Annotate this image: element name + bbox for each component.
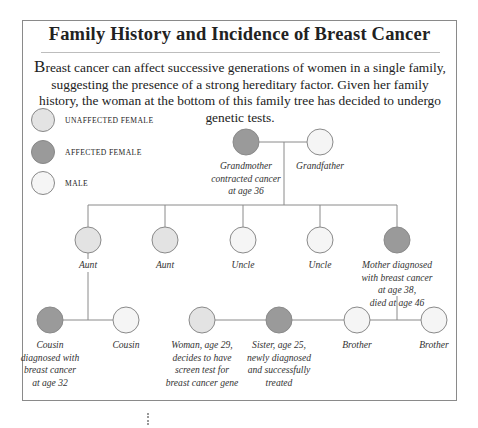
caption-line: Mother diagnosed bbox=[352, 259, 442, 272]
caption-line: diagnosed with bbox=[5, 352, 95, 365]
uncle-node bbox=[307, 227, 333, 253]
caption-line: at age 38, bbox=[352, 284, 442, 297]
uncle-node bbox=[230, 227, 256, 253]
caption-line: newly diagnosed bbox=[234, 352, 324, 365]
mother-caption: Mother diagnosed with breast cancer at a… bbox=[352, 259, 442, 309]
caption-line: Sister, age 25, bbox=[234, 339, 324, 352]
caption-line: at age 36 bbox=[201, 185, 291, 198]
aunt-node bbox=[75, 227, 101, 253]
caption-line: Aunt bbox=[76, 259, 100, 272]
aunt-node bbox=[152, 227, 178, 253]
grandfather-caption: Grandfather bbox=[275, 160, 365, 173]
brother-node bbox=[421, 307, 447, 333]
mother-node bbox=[384, 227, 410, 253]
caption-line: with breast cancer bbox=[352, 272, 442, 285]
caption-line: at age 32 bbox=[5, 377, 95, 390]
caption-line: and successfully bbox=[234, 364, 324, 377]
brother-caption: Brother bbox=[389, 339, 478, 352]
grandmother-node bbox=[233, 129, 259, 155]
cousin-male-node bbox=[113, 307, 139, 333]
caption-line: Brother bbox=[389, 339, 478, 352]
sister-node bbox=[266, 307, 292, 333]
caption-line: contracted cancer bbox=[201, 173, 291, 186]
caption-line: died at age 46 bbox=[352, 297, 442, 310]
cousin-affected-node bbox=[37, 307, 63, 333]
dotted-mark bbox=[147, 413, 151, 425]
caption-line: Grandfather bbox=[275, 160, 365, 173]
caption-line: Aunt bbox=[120, 259, 210, 272]
woman-node bbox=[189, 307, 215, 333]
caption-line: treated bbox=[234, 377, 324, 390]
sister-caption: Sister, age 25, newly diagnosed and succ… bbox=[234, 339, 324, 389]
brother-node bbox=[344, 307, 370, 333]
caption-line: breast cancer bbox=[5, 364, 95, 377]
aunt-caption: Aunt bbox=[120, 259, 210, 272]
grandfather-node bbox=[307, 129, 333, 155]
